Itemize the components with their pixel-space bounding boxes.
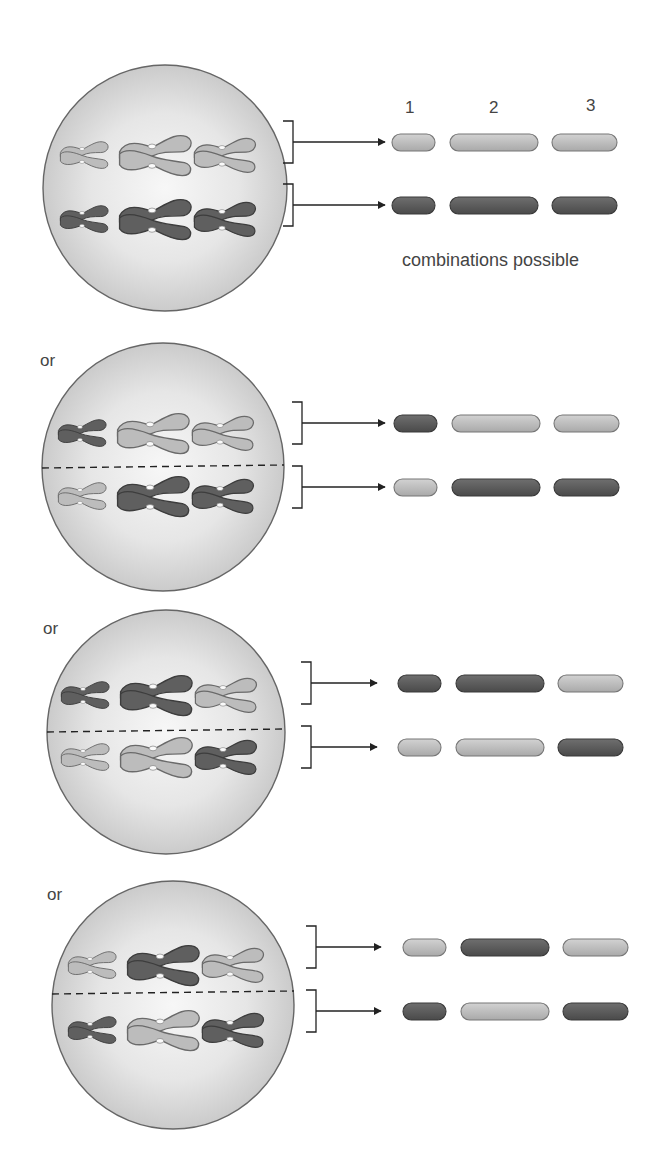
result-bar-top-3 bbox=[552, 134, 617, 151]
centromere bbox=[146, 422, 154, 427]
centromere bbox=[77, 501, 82, 504]
centromere bbox=[79, 147, 84, 150]
centromere bbox=[220, 686, 226, 690]
centromere bbox=[79, 211, 84, 214]
cell bbox=[52, 881, 294, 1129]
result-bar-bottom-1 bbox=[392, 197, 435, 214]
bracket-bottom bbox=[306, 990, 316, 1032]
result-bar-top-1 bbox=[398, 675, 441, 692]
centromere bbox=[146, 485, 154, 490]
bracket-top bbox=[306, 926, 316, 968]
panel-3 bbox=[47, 610, 623, 854]
result-bar-bottom-2 bbox=[452, 479, 540, 496]
centromere bbox=[217, 503, 223, 507]
result-bar-top-2 bbox=[452, 415, 540, 432]
centromere bbox=[219, 210, 225, 214]
result-bar-bottom-2 bbox=[450, 197, 538, 214]
centromere bbox=[148, 228, 156, 233]
centromere bbox=[146, 505, 154, 510]
centromere bbox=[87, 957, 92, 960]
result-bar-top-2 bbox=[461, 939, 549, 956]
centromere bbox=[77, 425, 82, 428]
centromere bbox=[227, 972, 233, 976]
centromere bbox=[80, 687, 85, 690]
centromere bbox=[217, 487, 223, 491]
result-bar-top-3 bbox=[554, 415, 619, 432]
result-bar-bottom-2 bbox=[456, 739, 544, 756]
result-bar-top-3 bbox=[563, 939, 628, 956]
centromere bbox=[80, 700, 85, 703]
centromere bbox=[156, 1019, 164, 1024]
result-bar-bottom-3 bbox=[563, 1003, 628, 1020]
diagram-canvas bbox=[0, 0, 666, 1169]
bracket-bottom bbox=[301, 726, 311, 768]
centromere bbox=[79, 224, 84, 227]
centromere bbox=[219, 162, 225, 166]
centromere bbox=[149, 766, 157, 771]
bracket-top bbox=[301, 662, 311, 704]
result-bar-bottom-1 bbox=[394, 479, 437, 496]
centromere bbox=[77, 438, 82, 441]
centromere bbox=[77, 488, 82, 491]
bracket-bottom bbox=[292, 466, 302, 508]
centromere bbox=[217, 424, 223, 428]
centromere bbox=[156, 954, 164, 959]
result-bar-top-2 bbox=[456, 675, 544, 692]
centromere bbox=[87, 1022, 92, 1025]
centromere bbox=[156, 974, 164, 979]
centromere bbox=[149, 704, 157, 709]
result-bar-top-1 bbox=[392, 134, 435, 151]
centromere bbox=[87, 970, 92, 973]
centromere bbox=[227, 1021, 233, 1025]
centromere bbox=[148, 164, 156, 169]
centromere bbox=[80, 749, 85, 752]
cell bbox=[47, 610, 285, 854]
result-bar-bottom-2 bbox=[461, 1003, 549, 1020]
centromere bbox=[148, 208, 156, 213]
result-bar-bottom-3 bbox=[552, 197, 617, 214]
result-bar-bottom-3 bbox=[558, 739, 623, 756]
panel-4 bbox=[52, 881, 628, 1129]
centromere bbox=[79, 160, 84, 163]
panel-2 bbox=[42, 343, 619, 591]
centromere bbox=[156, 1039, 164, 1044]
panel-1 bbox=[43, 65, 617, 311]
result-bar-bottom-1 bbox=[398, 739, 441, 756]
centromere bbox=[146, 442, 154, 447]
result-bar-top-2 bbox=[450, 134, 538, 151]
result-bar-top-1 bbox=[394, 415, 437, 432]
centromere bbox=[149, 684, 157, 689]
cell bbox=[43, 65, 287, 311]
centromere bbox=[220, 702, 226, 706]
result-bar-bottom-1 bbox=[403, 1003, 446, 1020]
centromere bbox=[217, 440, 223, 444]
centromere bbox=[227, 956, 233, 960]
bracket-top bbox=[283, 121, 293, 163]
centromere bbox=[220, 764, 226, 768]
centromere bbox=[220, 748, 226, 752]
result-bar-bottom-3 bbox=[554, 479, 619, 496]
centromere bbox=[87, 1035, 92, 1038]
result-bar-top-1 bbox=[403, 939, 446, 956]
centromere bbox=[148, 144, 156, 149]
centromere bbox=[227, 1037, 233, 1041]
centromere bbox=[80, 762, 85, 765]
bracket-top bbox=[292, 402, 302, 444]
result-bar-top-3 bbox=[558, 675, 623, 692]
centromere bbox=[149, 746, 157, 751]
centromere bbox=[219, 146, 225, 150]
centromere bbox=[219, 226, 225, 230]
